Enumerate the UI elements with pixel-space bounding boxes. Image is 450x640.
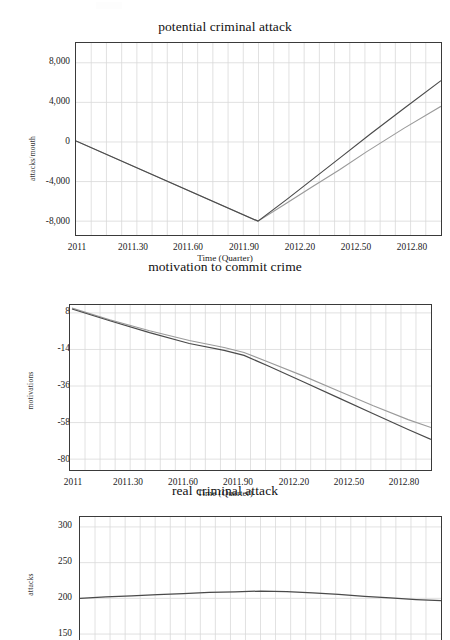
y-tick: 250: [58, 557, 72, 566]
data-series: [76, 43, 441, 235]
plot-wrap: attacks 300 250 200 150: [0, 500, 450, 640]
plot-area: [69, 304, 432, 471]
scan-artifact: [96, 2, 122, 9]
x-tick-labels: 2011 2011.30 2011.60 2011.90 2012.20 201…: [75, 240, 442, 254]
x-tick: 2011.60: [173, 240, 203, 254]
data-series: [70, 305, 431, 470]
x-tick: 2012.50: [341, 240, 371, 254]
plot-area: [79, 516, 442, 640]
series-line-primary: [72, 309, 431, 439]
y-tick: 200: [58, 593, 72, 602]
chart-motivation-to-commit-crime: motivation to commit crime motivations 8…: [0, 258, 450, 481]
y-tick: -8,000: [46, 217, 70, 226]
series-line-secondary: [76, 106, 441, 221]
series-line-primary: [80, 591, 441, 600]
chart-title: motivation to commit crime: [0, 258, 450, 276]
plot-area: [75, 42, 442, 236]
x-tick: 2012.80: [397, 240, 427, 254]
plot-wrap: motivations 8 -14 -36 -58 -80: [0, 276, 450, 481]
chart-title: real criminal attack: [0, 482, 450, 500]
data-series: [80, 517, 441, 640]
chart-real-criminal-attack: real criminal attack attacks 300 250 200…: [0, 482, 450, 640]
y-tick: 8,000: [49, 57, 70, 66]
y-tick-labels: 8,000 4,000 0 -4,000 -8,000: [0, 36, 70, 206]
y-tick: 0: [65, 137, 70, 146]
y-tick: 300: [58, 521, 72, 530]
y-tick-labels: 300 250 200 150: [0, 500, 72, 630]
chart-potential-criminal-attack: potential criminal attack attacks/mouth …: [0, 18, 450, 246]
x-tick: 2011.30: [118, 240, 148, 254]
x-tick: 2012.20: [285, 240, 315, 254]
x-tick: 2011.90: [229, 240, 259, 254]
plot-wrap: attacks/mouth 8,000 4,000 0 -4,000 -8,00…: [0, 36, 450, 246]
y-tick: -4,000: [46, 177, 70, 186]
y-tick: 150: [58, 629, 72, 638]
chart-title: potential criminal attack: [0, 18, 450, 36]
y-tick: 4,000: [49, 97, 70, 106]
series-line-primary: [76, 81, 441, 222]
x-tick: 2011: [68, 240, 86, 254]
y-tick-labels: 8 -14 -36 -58 -80: [0, 276, 70, 446]
